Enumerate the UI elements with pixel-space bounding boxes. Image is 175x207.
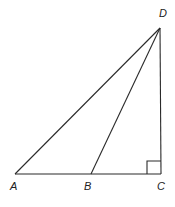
label-c: C [157,180,165,192]
triangle-diagram: D A B C [0,0,175,207]
segment-bd [91,28,160,174]
segment-cd [160,28,161,174]
segment-ad [15,28,160,174]
label-d: D [159,7,167,19]
label-b: B [84,180,91,192]
label-a: A [9,180,17,192]
diagram-svg: D A B C [0,0,175,207]
right-angle-marker [147,161,161,174]
